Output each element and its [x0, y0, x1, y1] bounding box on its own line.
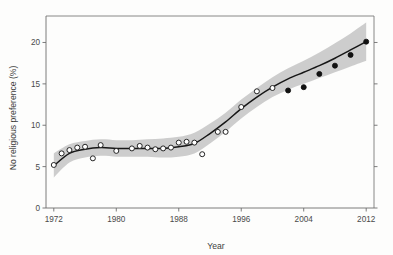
y-tick-label: 15 [31, 80, 41, 89]
data-point-open [59, 151, 64, 156]
data-point-open [83, 144, 88, 149]
data-point-open [98, 143, 103, 148]
data-point-open [153, 147, 158, 152]
x-tick-label: 1972 [45, 215, 64, 224]
data-point-filled [286, 88, 291, 93]
data-point-open [137, 143, 142, 148]
chart-figure: 05101520 197219801988199620042012 No rel… [0, 0, 393, 255]
data-point-open [51, 162, 56, 167]
x-tick-label: 1980 [107, 215, 126, 224]
data-point-filled [317, 71, 322, 76]
x-tick-label: 2004 [295, 215, 314, 224]
data-point-open [215, 129, 220, 134]
data-point-open [67, 148, 72, 153]
data-point-open [129, 146, 134, 151]
x-tick-label: 2012 [357, 215, 376, 224]
data-point-open [254, 89, 259, 94]
data-point-open [270, 86, 275, 91]
data-point-open [161, 146, 166, 151]
scatter-plot-svg: 05101520 197219801988199620042012 No rel… [0, 0, 393, 255]
data-point-open [239, 105, 244, 110]
data-point-open [114, 148, 119, 153]
data-point-open [192, 140, 197, 145]
y-tick-label: 10 [31, 121, 41, 130]
data-point-open [168, 145, 173, 150]
data-point-open [184, 139, 189, 144]
data-point-filled [364, 39, 369, 44]
data-point-filled [301, 85, 306, 90]
y-tick-label: 5 [35, 163, 40, 172]
data-point-open [75, 145, 80, 150]
x-tick-label: 1988 [170, 215, 189, 224]
x-tick-label: 1996 [232, 215, 251, 224]
x-axis-title: Year [207, 241, 225, 251]
data-point-filled [348, 52, 353, 57]
y-axis-title: No religious preference (%) [8, 66, 18, 171]
data-point-open [145, 145, 150, 150]
data-point-open [200, 152, 205, 157]
data-point-open [90, 156, 95, 161]
y-tick-label: 0 [35, 204, 40, 213]
data-point-open [176, 140, 181, 145]
data-point-filled [332, 63, 337, 68]
data-point-open [223, 129, 228, 134]
y-tick-label: 20 [31, 38, 41, 47]
